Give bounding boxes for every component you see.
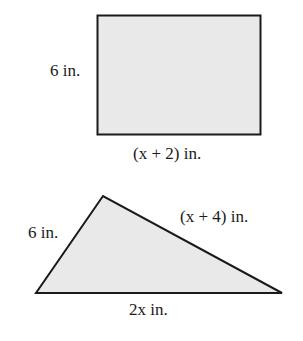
triangle-base-label: 2x in. (129, 301, 168, 318)
rectangle-shape (98, 16, 261, 135)
triangle-left-side-label: 6 in. (28, 224, 58, 241)
figures-canvas (0, 0, 303, 341)
rectangle-height-label: 6 in. (50, 62, 80, 79)
triangle-right-side-label: (x + 4) in. (180, 208, 248, 225)
rectangle-width-label: (x + 2) in. (133, 145, 201, 162)
